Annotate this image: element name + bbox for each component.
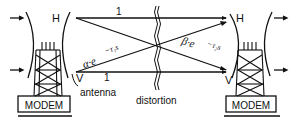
signal-paths	[76, 16, 227, 74]
right-v-label: V	[225, 74, 233, 86]
beta-term: β·e −τ₂s	[179, 31, 222, 58]
svg-text:−τ₂s: −τ₂s	[206, 39, 222, 52]
left-h-label: H	[52, 12, 60, 24]
left-input-arrow-h	[10, 16, 23, 20]
left-horn-outer	[26, 12, 34, 78]
right-modem-label: MODEM	[232, 100, 270, 111]
right-output-arrow-v	[274, 68, 287, 72]
right-station: MODEM H V	[224, 12, 287, 116]
svg-text:−τ₁s: −τ₁s	[103, 43, 119, 56]
left-modem-label: MODEM	[25, 100, 63, 111]
left-v-label: V	[76, 72, 84, 84]
svg-text:α·e: α·e	[81, 54, 98, 70]
path-v-h-cross	[76, 22, 226, 72]
right-output-arrow-h	[274, 16, 287, 20]
alpha-term: α·e −τ₁s	[80, 43, 122, 70]
diagram-canvas: MODEM H V antenna 1 1 α·e −τ₁s β·e −τ₂s …	[0, 0, 294, 128]
distortion-label: distortion	[136, 95, 177, 106]
gain-bottom-label: 1	[104, 72, 110, 83]
left-horn-inner	[62, 12, 70, 78]
left-tower-icon	[34, 42, 62, 96]
right-horn-inner	[264, 12, 272, 76]
right-tower-icon	[236, 42, 264, 96]
gain-top-label: 1	[116, 6, 122, 17]
right-h-label: H	[236, 12, 244, 24]
path-h-v-cross	[76, 18, 226, 70]
xpd-diagram: MODEM H V antenna 1 1 α·e −τ₁s β·e −τ₂s …	[0, 0, 294, 128]
left-input-arrow-v	[10, 68, 23, 72]
antenna-label: antenna	[80, 87, 117, 98]
